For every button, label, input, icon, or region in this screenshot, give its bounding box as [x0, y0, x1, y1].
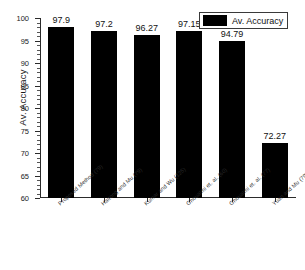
- y-tick-minor: [37, 81, 40, 82]
- y-tick-major: 80: [35, 108, 40, 109]
- y-tick-major: 90: [35, 63, 40, 64]
- y-tick-minor: [37, 185, 40, 186]
- bar-value-label: 94.79: [221, 29, 244, 39]
- y-tick-minor: [37, 162, 40, 163]
- bar-value-label: 97.2: [95, 19, 113, 29]
- y-axis-title: Av. Accuracy: [17, 38, 28, 158]
- bar-chart: Av. Accuracy 6065707580859095100 97.997.…: [0, 0, 305, 270]
- y-tick-minor: [37, 50, 40, 51]
- y-tick-minor: [37, 167, 40, 168]
- y-tick-label: 80: [21, 104, 29, 113]
- bar-value-label: 72.27: [263, 131, 286, 141]
- y-tick-label: 100: [16, 14, 29, 23]
- y-tick-minor: [37, 95, 40, 96]
- y-tick-minor: [37, 122, 40, 123]
- y-tick-label: 70: [21, 149, 29, 158]
- plot-area: 6065707580859095100 97.997.296.2797.1594…: [40, 18, 296, 198]
- y-tick-minor: [37, 117, 40, 118]
- y-tick-major: 60: [35, 198, 40, 199]
- y-tick-label: 95: [21, 36, 29, 45]
- x-axis-line: [40, 197, 296, 198]
- bar-value-label: 97.9: [53, 15, 71, 25]
- y-tick-major: 65: [35, 176, 40, 177]
- y-tick-major: 70: [35, 153, 40, 154]
- bar-value-label: 97.15: [178, 19, 201, 29]
- y-tick-minor: [37, 149, 40, 150]
- y-tick-minor: [37, 113, 40, 114]
- y-tick-minor: [37, 194, 40, 195]
- y-tick-minor: [37, 171, 40, 172]
- y-tick-minor: [37, 144, 40, 145]
- y-tick-label: 60: [21, 194, 29, 203]
- y-tick-minor: [37, 68, 40, 69]
- y-tick-label: 75: [21, 126, 29, 135]
- y-tick-minor: [37, 72, 40, 73]
- y-tick-label: 90: [21, 59, 29, 68]
- bar-value-label: 96.27: [135, 23, 158, 33]
- y-tick-minor: [37, 23, 40, 24]
- y-tick-minor: [37, 36, 40, 37]
- y-tick-minor: [37, 104, 40, 105]
- y-tick-minor: [37, 59, 40, 60]
- bar: 97.9: [48, 27, 74, 198]
- y-tick-minor: [37, 27, 40, 28]
- y-tick-minor: [37, 180, 40, 181]
- y-tick-minor: [37, 158, 40, 159]
- y-tick-minor: [37, 54, 40, 55]
- legend-entry-label: Av. Accuracy: [232, 16, 283, 26]
- y-tick-major: 85: [35, 86, 40, 87]
- legend-swatch-icon: [203, 15, 227, 26]
- y-tick-minor: [37, 45, 40, 46]
- y-tick-minor: [37, 90, 40, 91]
- y-tick-minor: [37, 189, 40, 190]
- legend: Av. Accuracy: [199, 12, 288, 29]
- y-tick-major: 100: [35, 18, 40, 19]
- y-axis-line: [40, 18, 41, 198]
- y-tick-major: 95: [35, 41, 40, 42]
- y-tick-minor: [37, 32, 40, 33]
- y-tick-label: 85: [21, 81, 29, 90]
- y-tick-minor: [37, 140, 40, 141]
- y-tick-major: 75: [35, 131, 40, 132]
- y-tick-minor: [37, 99, 40, 100]
- y-tick-label: 65: [21, 171, 29, 180]
- y-tick-minor: [37, 77, 40, 78]
- y-tick-minor: [37, 135, 40, 136]
- y-tick-minor: [37, 126, 40, 127]
